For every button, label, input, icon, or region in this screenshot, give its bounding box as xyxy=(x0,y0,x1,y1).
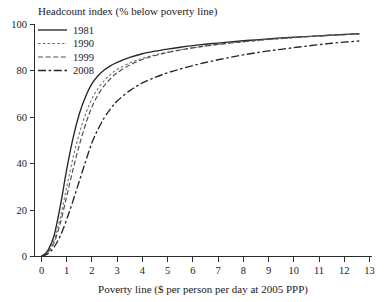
x-tick-label: 3 xyxy=(115,265,120,276)
legend-label-2008: 2008 xyxy=(73,65,94,76)
x-axis-title: Poverty line ($ per person per day at 20… xyxy=(98,283,308,296)
legend-label-1990: 1990 xyxy=(73,38,94,49)
y-tick-label: 100 xyxy=(11,19,27,30)
legend-label-1999: 1999 xyxy=(73,52,94,63)
x-tick-label: 5 xyxy=(165,265,170,276)
y-tick-label: 60 xyxy=(17,112,28,123)
x-tick-label: 4 xyxy=(140,265,146,276)
x-axis-ticks: 0 1 2 3 4 5 6 7 8 9 10 11 12 xyxy=(39,257,375,277)
x-tick-label: 9 xyxy=(266,265,271,276)
legend-item-1981[interactable]: 1981 xyxy=(38,25,94,36)
legend: 1981 1990 1999 2008 xyxy=(38,25,94,77)
x-tick-label: 6 xyxy=(190,265,195,276)
legend-item-1999[interactable]: 1999 xyxy=(38,52,94,63)
x-tick-label: 12 xyxy=(339,265,350,276)
x-tick-label: 13 xyxy=(364,265,375,276)
y-tick-label: 80 xyxy=(17,65,28,76)
x-tick-label: 10 xyxy=(288,265,299,276)
x-tick-label: 2 xyxy=(89,265,94,276)
y-axis-ticks: 100 80 60 40 20 0 xyxy=(11,19,34,262)
legend-item-2008[interactable]: 2008 xyxy=(38,65,94,76)
x-tick-label: 1 xyxy=(64,265,69,276)
x-tick-label: 11 xyxy=(314,265,324,276)
legend-item-1990[interactable]: 1990 xyxy=(38,38,94,49)
chart-container: Headcount index (% below poverty line) 1… xyxy=(0,0,385,302)
y-tick-label: 20 xyxy=(17,205,28,216)
y-tick-label: 40 xyxy=(17,158,28,169)
x-tick-label: 0 xyxy=(39,265,44,276)
legend-label-1981: 1981 xyxy=(73,25,94,36)
x-tick-label: 8 xyxy=(241,265,246,276)
chart-title: Headcount index (% below poverty line) xyxy=(38,5,218,18)
line-chart: Headcount index (% below poverty line) 1… xyxy=(0,0,385,302)
y-tick-label: 0 xyxy=(22,251,27,262)
x-tick-label: 7 xyxy=(215,265,220,276)
